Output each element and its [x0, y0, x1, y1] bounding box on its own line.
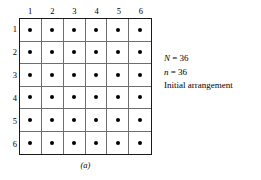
- sample-dot-icon: [94, 50, 98, 54]
- row-header-1: 1: [5, 18, 17, 41]
- grid-cell: [64, 42, 86, 65]
- sample-dot-icon: [28, 141, 32, 145]
- row-header-4: 4: [5, 86, 17, 109]
- column-header-5: 5: [108, 5, 130, 17]
- sample-dot-icon: [138, 141, 142, 145]
- figure-page: 123456 123456 N = 36n = 36Initial arrang…: [0, 0, 261, 180]
- grid-cell: [107, 19, 129, 42]
- grid-cell: [86, 42, 108, 65]
- column-header-4: 4: [86, 5, 108, 17]
- grid-cell: [64, 64, 86, 87]
- column-header-6: 6: [130, 5, 152, 17]
- annotation-relation: =: [170, 53, 180, 63]
- grid-cell: [20, 109, 42, 132]
- sample-dot-icon: [50, 141, 54, 145]
- annotation-line: Initial arrangement: [164, 79, 259, 93]
- sample-dot-icon: [50, 50, 54, 54]
- grid-cell: [20, 132, 42, 155]
- grid-cell: [20, 42, 42, 65]
- sample-dot-icon: [72, 95, 76, 99]
- grid-cell: [107, 132, 129, 155]
- sample-dot-icon: [94, 95, 98, 99]
- sample-dot-icon: [138, 28, 142, 32]
- sample-dot-icon: [116, 73, 120, 77]
- sample-dot-icon: [138, 50, 142, 54]
- grid-cell: [86, 109, 108, 132]
- row-header-6: 6: [5, 132, 17, 155]
- sample-dot-icon: [94, 28, 98, 32]
- sample-dot-icon: [72, 28, 76, 32]
- sample-dot-icon: [50, 95, 54, 99]
- sample-dot-icon: [72, 141, 76, 145]
- sample-dot-icon: [116, 28, 120, 32]
- grid-cell: [107, 42, 129, 65]
- grid-cell: [129, 109, 151, 132]
- row-header-column: 123456: [5, 18, 17, 155]
- grid-cell: [107, 64, 129, 87]
- grid-cell: [107, 109, 129, 132]
- column-header-3: 3: [63, 5, 85, 17]
- grid-cell: [20, 64, 42, 87]
- annotation-block: N = 36n = 36Initial arrangement: [164, 52, 259, 93]
- sample-dot-icon: [72, 73, 76, 77]
- figure-caption: (a): [19, 160, 152, 170]
- grid-cell: [86, 64, 108, 87]
- grid-cell: [42, 132, 64, 155]
- row-header-3: 3: [5, 64, 17, 87]
- sample-dot-icon: [28, 118, 32, 122]
- row-header-5: 5: [5, 109, 17, 132]
- lattice-figure: 123456 123456 N = 36n = 36Initial arrang…: [0, 0, 261, 180]
- sample-dot-icon: [116, 118, 120, 122]
- sample-dot-icon: [116, 50, 120, 54]
- column-header-1: 1: [19, 5, 41, 17]
- sample-dot-icon: [28, 95, 32, 99]
- sample-dot-icon: [94, 73, 98, 77]
- grid-cell: [20, 19, 42, 42]
- grid-cell: [86, 87, 108, 110]
- grid-cell: [42, 87, 64, 110]
- sample-dot-icon: [28, 50, 32, 54]
- column-header-row: 123456: [19, 5, 152, 17]
- grid-cell: [64, 19, 86, 42]
- grid-cell: [129, 132, 151, 155]
- grid-cell: [86, 19, 108, 42]
- grid-cell: [107, 87, 129, 110]
- grid-cell: [42, 19, 64, 42]
- grid-cell: [129, 19, 151, 42]
- annotation-value: 36: [180, 53, 189, 63]
- annotation-relation: =: [169, 67, 179, 77]
- sample-dot-icon: [50, 28, 54, 32]
- sample-dot-icon: [72, 118, 76, 122]
- grid-cell: [129, 87, 151, 110]
- grid-cell: [129, 64, 151, 87]
- sample-dot-icon: [94, 118, 98, 122]
- sample-dot-icon: [28, 73, 32, 77]
- annotation-text: Initial arrangement: [164, 80, 233, 90]
- annotation-line: n = 36: [164, 66, 259, 80]
- sample-dot-icon: [138, 95, 142, 99]
- annotation-line: N = 36: [164, 52, 259, 66]
- sample-dot-icon: [50, 73, 54, 77]
- grid-cell: [42, 64, 64, 87]
- grid-cell: [42, 42, 64, 65]
- column-header-2: 2: [41, 5, 63, 17]
- grid-cell: [64, 109, 86, 132]
- sample-dot-icon: [72, 50, 76, 54]
- sample-dot-icon: [116, 141, 120, 145]
- grid-cell: [129, 42, 151, 65]
- sampling-grid: [19, 18, 152, 155]
- grid-cell: [64, 132, 86, 155]
- annotation-value: 36: [178, 67, 187, 77]
- sample-dot-icon: [28, 28, 32, 32]
- grid-cell: [20, 87, 42, 110]
- sample-dot-icon: [116, 95, 120, 99]
- grid-cell: [42, 109, 64, 132]
- sample-dot-icon: [50, 118, 54, 122]
- sample-dot-icon: [94, 141, 98, 145]
- grid-cell: [64, 87, 86, 110]
- row-header-2: 2: [5, 41, 17, 64]
- grid-cell: [86, 132, 108, 155]
- sample-dot-icon: [138, 118, 142, 122]
- sample-dot-icon: [138, 73, 142, 77]
